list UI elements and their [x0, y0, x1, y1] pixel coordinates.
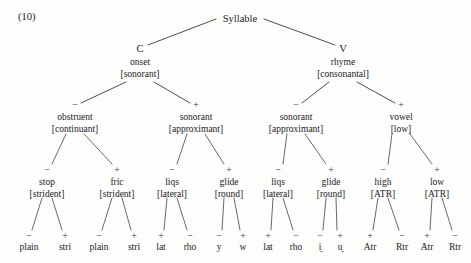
edge-leaf-atr-low [430, 198, 432, 230]
leaf-lat-onset-label: lat [156, 242, 166, 252]
leaf-atr-high-sign: + [367, 230, 373, 241]
leaf-rho-onset-sign: − [187, 230, 193, 241]
edge-node-sonorant-onset [154, 82, 190, 103]
node-sonorant-onset-feature: [approximant] [169, 124, 223, 134]
node-obstruent-feature: [continuant] [52, 124, 98, 134]
node-sonorant-onset-label: sonorant [180, 112, 213, 122]
edge-leaf-stri-fric [122, 198, 131, 230]
edge-leaf-lat-rhyme [271, 198, 273, 230]
node-fric-feature: [strident] [100, 189, 135, 199]
edge-leaf-atr-high [373, 198, 378, 230]
edge-node-glide-onset [205, 134, 224, 164]
edge-node-glide-rhyme [305, 134, 326, 164]
example-number: (10) [18, 11, 36, 23]
node-v-category: V [339, 43, 347, 54]
edge-leaf-y [222, 198, 224, 230]
leaf-plain-stop-sign: − [26, 230, 32, 241]
edge-leaf-rtr-high [388, 198, 399, 230]
node-high-label: high [375, 177, 392, 187]
node-glide-rhyme-feature: [round] [317, 189, 346, 199]
node-liqs-rhyme-sign: − [275, 164, 281, 175]
node-low-feature: [ATR] [425, 189, 449, 199]
node-vowel-feature: [low] [391, 124, 412, 134]
leaf-i-nonsyllabic-sign: − [317, 230, 323, 241]
node-stop-feature: [strident] [30, 189, 65, 199]
node-low-label: low [430, 177, 444, 187]
node-obstruent-label: obstruent [57, 112, 93, 122]
edge-node-sonorant-rhyme [302, 82, 329, 103]
node-liqs-rhyme-feature: [lateral] [263, 189, 293, 199]
edge-root-node-v [264, 19, 335, 45]
edge-leaf-rho-rhyme [283, 198, 293, 230]
node-liqs-onset-feature: [lateral] [157, 189, 187, 199]
tree-diagram: (10)SyllableConset[sonorant]Vrhyme[conso… [0, 0, 471, 263]
edge-leaf-stri-stop [52, 198, 62, 230]
leaf-stri-stop-label: stri [59, 242, 72, 252]
leaf-rtr-low-sign: − [452, 230, 458, 241]
node-sonorant-rhyme-feature: [approximant] [269, 124, 323, 134]
syllable-feature-tree-figure: (10)SyllableConset[sonorant]Vrhyme[conso… [0, 0, 471, 263]
leaf-rtr-high-label: Rtr [396, 242, 409, 252]
edge-leaf-w [234, 198, 240, 230]
leaf-atr-low-label: Atr [421, 242, 435, 252]
leaf-i-nonsyllabic-label: i̯ [319, 242, 324, 253]
leaf-atr-high-label: Atr [364, 242, 378, 252]
node-v-label: rhyme [331, 57, 355, 67]
leaf-rtr-high-sign: − [399, 230, 405, 241]
leaf-y-label: y [217, 242, 222, 252]
node-high-sign: − [380, 164, 386, 175]
leaf-u-nonsyllabic-sign: + [337, 230, 343, 241]
edge-node-liqs-rhyme [283, 134, 287, 164]
leaf-lat-onset-sign: + [158, 230, 164, 241]
node-liqs-onset-sign: − [169, 164, 175, 175]
edge-leaf-u-nonsyllabic [336, 198, 337, 230]
leaf-lat-rhyme-label: lat [263, 242, 273, 252]
leaf-plain-fric-sign: − [96, 230, 102, 241]
node-high-feature: [ATR] [371, 189, 395, 199]
node-glide-rhyme-label: glide [322, 177, 341, 187]
leaf-stri-fric-label: stri [128, 242, 141, 252]
node-glide-onset-feature: [round] [215, 189, 244, 199]
node-stop-sign: − [44, 164, 50, 175]
edge-leaf-lat-onset [164, 198, 167, 230]
edge-node-low [410, 134, 432, 164]
edge-node-vowel [357, 82, 395, 103]
node-vowel-label: vowel [389, 112, 413, 122]
edge-leaf-rho-onset [177, 198, 187, 230]
edge-leaf-rtr-low [442, 198, 452, 230]
node-sonorant-onset-sign: + [193, 99, 199, 110]
edge-leaf-plain-fric [102, 198, 112, 230]
node-glide-rhyme-sign: + [328, 164, 334, 175]
leaf-u-nonsyllabic-label: u̯ [338, 242, 345, 253]
node-c-feature: [sonorant] [120, 69, 159, 79]
leaf-rho-rhyme-label: rho [290, 242, 303, 252]
leaf-rho-onset-label: rho [184, 242, 197, 252]
node-glide-onset-sign: + [226, 164, 232, 175]
leaf-atr-low-sign: + [424, 230, 430, 241]
leaf-w-label: w [240, 242, 247, 252]
node-liqs-rhyme-label: liqs [271, 177, 285, 187]
node-c-category: C [136, 43, 143, 54]
leaf-y-sign: − [216, 230, 222, 241]
edge-node-fric [84, 134, 112, 164]
node-sonorant-rhyme-label: sonorant [280, 112, 313, 122]
edge-leaf-i-nonsyllabic [323, 198, 326, 230]
leaf-rtr-low-label: Rtr [449, 242, 462, 252]
leaf-stri-stop-sign: + [62, 230, 68, 241]
node-vowel-sign: + [398, 99, 404, 110]
leaf-w-sign: + [240, 230, 246, 241]
leaf-plain-stop-label: plain [20, 242, 39, 252]
node-fric-sign: + [114, 164, 120, 175]
node-obstruent-sign: − [72, 99, 78, 110]
node-liqs-onset-label: liqs [165, 177, 179, 187]
node-v-feature: [consonantal] [317, 69, 369, 79]
leaf-lat-rhyme-sign: + [265, 230, 271, 241]
edge-node-obstruent [81, 82, 126, 103]
node-sonorant-rhyme-sign: − [293, 99, 299, 110]
edge-node-stop [52, 134, 66, 164]
root-node: Syllable [223, 13, 258, 24]
node-c-label: onset [130, 57, 150, 67]
node-fric-label: fric [110, 177, 123, 187]
leaf-stri-fric-sign: + [131, 230, 137, 241]
tree-labels: (10)SyllableConset[sonorant]Vrhyme[conso… [18, 11, 462, 253]
